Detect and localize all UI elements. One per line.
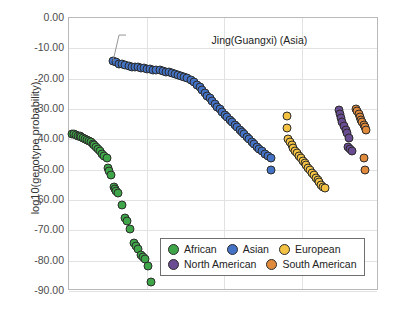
y-axis-tick-label: -30.00	[12, 102, 64, 114]
legend-label: Asian	[243, 243, 269, 255]
legend-swatch-icon	[266, 259, 277, 270]
legend-swatch-icon	[279, 244, 290, 255]
y-axis-tick-label: -10.00	[12, 41, 64, 53]
gridline-horizontal	[69, 291, 377, 292]
legend-swatch-icon	[168, 259, 179, 270]
legend-item-african[interactable]: African	[168, 243, 217, 255]
legend-swatch-icon	[168, 244, 179, 255]
legend-label: South American	[282, 258, 356, 270]
y-axis-tick-label: -50.00	[12, 163, 64, 175]
legend-label: European	[295, 243, 341, 255]
legend-row: North AmericanSouth American	[168, 258, 357, 270]
y-axis-tick-label: -80.00	[12, 254, 64, 266]
y-axis-tick-label: -60.00	[12, 193, 64, 205]
legend-item-european[interactable]: European	[279, 243, 341, 255]
legend-swatch-icon	[227, 244, 238, 255]
legend: AfricanAsianEuropean North AmericanSouth…	[160, 238, 365, 276]
annotation-label: Jing(Guangxi) (Asia)	[212, 34, 308, 46]
y-axis-tick-labels: 0.00-10.00-20.00-30.00-40.00-50.00-60.00…	[8, 0, 64, 310]
y-axis-tick-label: -90.00	[12, 284, 64, 296]
y-axis-tick-label: -70.00	[12, 223, 64, 235]
y-axis-tick-label: -20.00	[12, 72, 64, 84]
y-axis-tick-label: 0.00	[12, 11, 64, 23]
legend-item-south-american[interactable]: South American	[266, 258, 356, 270]
scatter-chart: log10(genotype probability) 0.00-10.00-2…	[0, 0, 393, 310]
legend-row: AfricanAsianEuropean	[168, 243, 357, 255]
y-axis-tick-label: -40.00	[12, 132, 64, 144]
legend-item-asian[interactable]: Asian	[227, 243, 269, 255]
legend-label: North American	[184, 258, 256, 270]
legend-item-north-american[interactable]: North American	[168, 258, 256, 270]
legend-label: African	[184, 243, 217, 255]
